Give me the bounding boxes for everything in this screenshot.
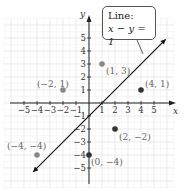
y-axis-label: y: [79, 9, 86, 19]
coordinate-plane: xy −5−4−3−2−11234554321−1−2−3−4−5 (−2, 1…: [0, 0, 185, 192]
point-label: (4, 1): [145, 79, 169, 89]
x-tick-label: −3: [44, 105, 57, 115]
x-tick-label: 5: [151, 105, 156, 115]
point-label: (1, 3): [106, 66, 130, 76]
x-tick-label: 4: [138, 105, 143, 115]
callout-title: Line:: [108, 9, 155, 22]
callout-equation: x − y = 1: [108, 22, 155, 48]
y-tick-label: −4: [73, 150, 86, 160]
y-tick-label: 5: [81, 33, 86, 43]
data-point: [34, 152, 40, 158]
x-axis-label: x: [173, 106, 178, 116]
y-tick-label: 3: [81, 59, 86, 69]
point-label: (−4, −4): [7, 141, 46, 151]
x-tick-label: 1: [99, 105, 104, 115]
y-tick-label: 2: [81, 72, 86, 82]
y-tick-label: −5: [73, 163, 86, 173]
line-callout: Line: x − y = 1: [102, 6, 156, 40]
y-tick-label: 1: [81, 85, 86, 95]
y-tick-label: 4: [81, 46, 86, 56]
x-tick-label: 2: [112, 105, 117, 115]
data-point: [112, 126, 118, 132]
y-tick-label: −3: [73, 137, 86, 147]
point-label: (−2, 1): [37, 79, 69, 89]
point-label: (0, −4): [91, 157, 123, 167]
data-point: [99, 61, 105, 67]
x-tick-label: −4: [31, 105, 44, 115]
data-point: [138, 87, 144, 93]
x-tick-label: −2: [57, 105, 70, 115]
y-tick-label: −1: [73, 111, 86, 121]
point-label: (2, −2): [119, 132, 151, 142]
x-tick-label: 3: [125, 105, 130, 115]
x-tick-label: −5: [18, 105, 31, 115]
